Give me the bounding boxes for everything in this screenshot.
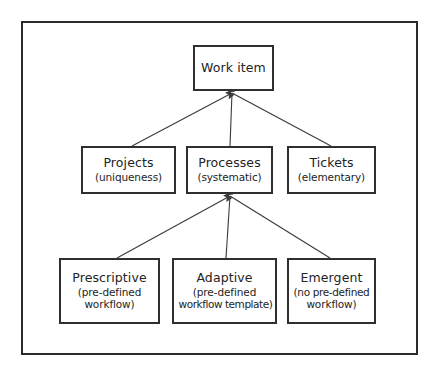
node-emergent-subtitle-line1: (no pre-defined (294, 286, 370, 298)
edge-emergent-to-processes (230, 196, 330, 258)
node-processes: Processes (systematic) (186, 146, 273, 194)
node-projects-subtitle: (uniqueness) (95, 171, 162, 183)
node-adaptive-subtitle-line2: workflow template) (179, 298, 273, 310)
node-prescriptive-subtitle-line1: (pre-defined (78, 286, 141, 298)
node-prescriptive-subtitle-line2: workflow) (84, 298, 134, 310)
edge-adaptive-to-processes (226, 196, 230, 258)
edge-projects-to-work-item (132, 93, 232, 146)
edge-processes-to-work-item (230, 93, 232, 146)
node-projects-title: Projects (103, 156, 153, 171)
node-tickets-title: Tickets (309, 156, 353, 171)
node-work-item: Work item (193, 45, 274, 91)
edge-prescriptive-to-processes (117, 196, 230, 258)
node-adaptive-title: Adaptive (196, 271, 252, 286)
edge-tickets-to-work-item (232, 93, 331, 146)
diagram-canvas: Work item Projects (uniqueness) Processe… (0, 0, 439, 371)
node-work-item-title: Work item (201, 61, 266, 76)
node-emergent-title: Emergent (301, 271, 363, 286)
node-adaptive: Adaptive (pre-defined workflow template) (172, 258, 277, 324)
node-processes-subtitle: (systematic) (197, 171, 261, 183)
node-adaptive-subtitle-line1: (pre-defined (193, 286, 256, 298)
node-prescriptive-title: Prescriptive (72, 271, 146, 286)
node-tickets: Tickets (elementary) (287, 146, 376, 194)
node-projects: Projects (uniqueness) (81, 146, 176, 194)
node-prescriptive: Prescriptive (pre-defined workflow) (59, 258, 160, 324)
node-processes-title: Processes (198, 156, 261, 171)
node-tickets-subtitle: (elementary) (298, 171, 365, 183)
node-emergent-subtitle-line2: workflow) (306, 298, 356, 310)
node-emergent: Emergent (no pre-defined workflow) (287, 258, 376, 324)
